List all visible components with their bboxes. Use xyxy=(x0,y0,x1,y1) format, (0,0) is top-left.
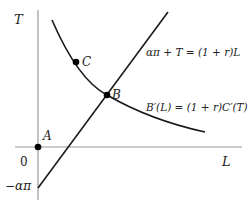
point-b xyxy=(104,92,111,99)
origin-label: 0 xyxy=(20,155,28,169)
point-a-label: A xyxy=(42,129,52,143)
optimality-curve xyxy=(52,20,205,132)
x-axis-label: L xyxy=(221,154,231,169)
budget-line-label: απ + T = (1 + r)L xyxy=(146,46,240,58)
optimality-curve-label: B′(L) = (1 + r)C′(T) xyxy=(145,101,248,113)
point-c-label: C xyxy=(82,55,91,69)
point-c xyxy=(73,59,80,66)
y-axis-label: T xyxy=(14,12,24,27)
diagram-canvas: T L 0 −απ A B C απ + T = (1 + r)L B′(L) … xyxy=(0,0,249,206)
budget-line xyxy=(38,12,168,188)
y-intercept-label: −απ xyxy=(5,179,32,193)
point-b-label: B xyxy=(111,88,121,102)
point-a xyxy=(35,144,42,151)
